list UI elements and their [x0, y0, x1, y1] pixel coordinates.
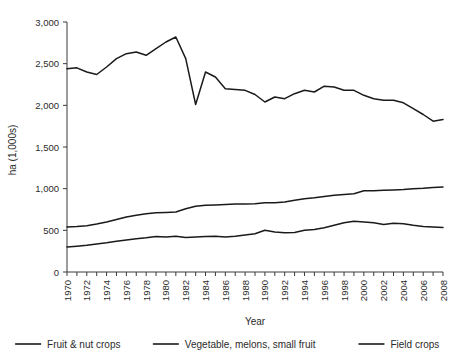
x-tick-label: 1984 [200, 280, 211, 301]
y-tick-label: 1,000 [35, 183, 59, 194]
legend-label-0: Fruit & nut crops [47, 339, 120, 350]
y-axis: 05001,0001,5002,0002,5003,000 [35, 17, 67, 278]
x-tick-label: 1974 [101, 280, 112, 301]
x-tick-label: 1992 [279, 280, 290, 301]
x-tick-label: 2006 [418, 280, 429, 301]
x-tick-label: 1994 [299, 280, 310, 301]
series-line-1 [67, 221, 443, 247]
y-tick-label: 3,000 [35, 17, 59, 28]
x-tick-label: 2002 [378, 280, 389, 301]
y-axis-title: ha (1,000s) [7, 125, 18, 176]
chart-legend: Fruit & nut cropsVegetable, melons, smal… [15, 339, 439, 350]
series-lines [67, 37, 443, 247]
x-tick-label: 1988 [240, 280, 251, 301]
chart-canvas: 05001,0001,5002,0002,5003,000 1970197219… [0, 0, 463, 363]
x-tick-label: 1972 [81, 280, 92, 301]
legend-label-1: Vegetable, melons, small fruit [185, 339, 316, 350]
y-tick-label: 1,500 [35, 142, 59, 153]
x-axis-title: Year [245, 316, 266, 327]
x-tick-label: 1998 [339, 280, 350, 301]
x-tick-label: 1980 [160, 280, 171, 301]
x-tick-label: 1976 [121, 280, 132, 301]
series-line-2 [67, 187, 443, 227]
y-tick-label: 2,000 [35, 100, 59, 111]
y-tick-label: 500 [43, 225, 59, 236]
line-chart: 05001,0001,5002,0002,5003,000 1970197219… [0, 0, 463, 363]
x-axis: 1970197219741976197819801982198419861988… [62, 272, 449, 301]
x-tick-label: 1986 [220, 280, 231, 301]
series-line-0 [67, 37, 443, 121]
x-tick-label: 1970 [62, 280, 73, 301]
legend-label-2: Field crops [390, 339, 439, 350]
x-tick-label: 2008 [438, 280, 449, 301]
x-tick-label: 1978 [141, 280, 152, 301]
x-tick-label: 2000 [358, 280, 369, 301]
x-tick-label: 2004 [398, 280, 409, 301]
y-tick-label: 2,500 [35, 58, 59, 69]
x-tick-label: 1990 [259, 280, 270, 301]
x-tick-label: 1996 [319, 280, 330, 301]
y-tick-label: 0 [54, 267, 59, 278]
x-tick-label: 1982 [180, 280, 191, 301]
